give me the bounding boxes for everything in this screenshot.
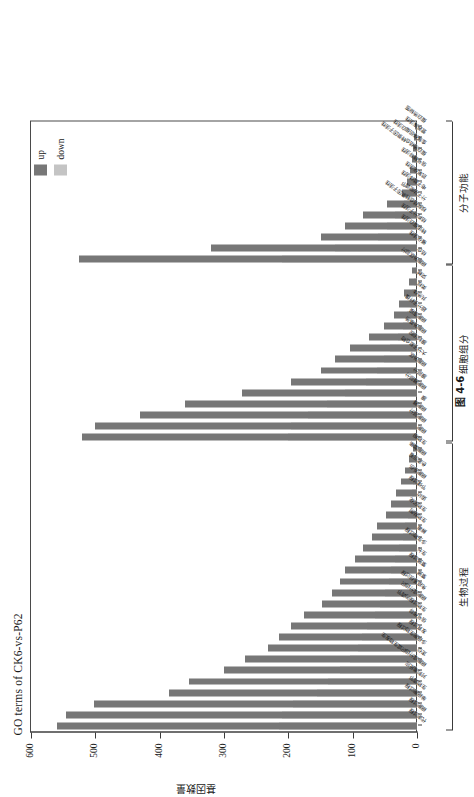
group-bracket-end <box>446 264 452 265</box>
bar-group <box>31 444 417 451</box>
bar-group <box>31 144 417 151</box>
legend-label-down: down <box>56 138 66 159</box>
group-bracket-end <box>446 440 452 441</box>
bar-group <box>31 478 417 485</box>
category-tick <box>418 225 422 226</box>
bar-group <box>31 367 417 374</box>
figure-caption: 图 4-6 <box>452 375 467 407</box>
bar-group <box>31 422 417 429</box>
legend-label-up: up <box>36 150 46 160</box>
value-axis-tick-label: 400 <box>154 743 164 787</box>
bar-up <box>304 611 417 618</box>
bar-group <box>31 666 417 673</box>
bar-up <box>279 633 417 640</box>
category-tick <box>418 436 422 437</box>
category-tick <box>418 569 422 570</box>
bar-up <box>95 422 417 429</box>
value-axis-tick <box>31 732 32 738</box>
category-tick <box>418 402 422 403</box>
category-tick <box>418 247 422 248</box>
bar-group <box>31 122 417 129</box>
bar-group <box>31 222 417 229</box>
category-tick <box>418 413 422 414</box>
group-label: 细胞组分 <box>456 265 470 441</box>
bar-group <box>31 400 417 407</box>
bar-group <box>31 722 417 729</box>
bar-up <box>57 722 417 729</box>
chart-title: GO terms of CK6-vs-P62 <box>12 613 24 735</box>
category-tick <box>418 291 422 292</box>
value-axis-tick <box>353 732 354 738</box>
bar-group <box>31 200 417 207</box>
value-axis-tick-label: 0 <box>411 743 421 787</box>
category-tick <box>418 691 422 692</box>
category-tick <box>418 458 422 459</box>
legend: up down <box>34 138 74 175</box>
category-tick <box>418 447 422 448</box>
bar-group <box>31 544 417 551</box>
bar-group <box>31 311 417 318</box>
bar-up <box>79 255 417 262</box>
category-tick <box>418 158 422 159</box>
group-label: 生物过程 <box>456 443 470 730</box>
bar-group <box>31 167 417 174</box>
bar-up <box>82 433 417 440</box>
group-bracket <box>452 443 454 730</box>
bar-group <box>31 489 417 496</box>
bar-group <box>31 600 417 607</box>
category-tick <box>418 180 422 181</box>
category-tick <box>418 169 422 170</box>
bar-up <box>321 233 418 240</box>
group-bracket <box>452 121 454 264</box>
category-tick <box>418 469 422 470</box>
bar-group <box>31 533 417 540</box>
bar-up <box>211 244 417 251</box>
value-axis-tick <box>160 732 161 738</box>
category-tick <box>418 313 422 314</box>
category-tick <box>418 680 422 681</box>
category-tick <box>418 391 422 392</box>
bar-group <box>31 511 417 518</box>
bar-group <box>31 633 417 640</box>
bar-up <box>185 400 417 407</box>
category-label: 膜 <box>420 393 428 402</box>
value-axis-title: 基因数量 <box>176 782 216 797</box>
category-tick <box>418 502 422 503</box>
category-tick <box>418 302 422 303</box>
bar-group <box>31 655 417 662</box>
group-label: 分子功能 <box>456 121 470 264</box>
bar-group <box>31 433 417 440</box>
bar-up <box>291 378 417 385</box>
category-tick <box>418 125 422 126</box>
category-tick <box>418 380 422 381</box>
bar-up <box>335 355 417 362</box>
bar-group <box>31 255 417 262</box>
bar-up <box>94 700 417 707</box>
category-tick <box>418 513 422 514</box>
bar-up <box>245 655 417 662</box>
bar-group <box>31 644 417 651</box>
value-axis-tick-label: 600 <box>25 743 35 787</box>
category-tick <box>418 336 422 337</box>
bar-group <box>31 467 417 474</box>
group-bracket-end <box>446 263 452 264</box>
bar-series-area <box>31 120 417 731</box>
bar-group <box>31 500 417 507</box>
category-tick <box>418 713 422 714</box>
legend-swatch-down <box>54 164 67 175</box>
category-tick <box>418 658 422 659</box>
category-tick <box>418 524 422 525</box>
value-axis-tick-label: 100 <box>347 743 357 787</box>
bar-group <box>31 233 417 240</box>
category-tick <box>418 669 422 670</box>
category-tick <box>418 480 422 481</box>
category-tick <box>418 325 422 326</box>
bar-up <box>322 600 417 607</box>
bar-group <box>31 322 417 329</box>
bar-group <box>31 611 417 618</box>
category-tick <box>418 269 422 270</box>
bar-group <box>31 355 417 362</box>
bar-group <box>31 711 417 718</box>
category-tick <box>418 702 422 703</box>
